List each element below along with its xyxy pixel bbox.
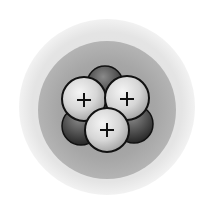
atom-diagram: [0, 0, 204, 199]
proton: [85, 108, 129, 152]
nucleus: [62, 66, 153, 152]
